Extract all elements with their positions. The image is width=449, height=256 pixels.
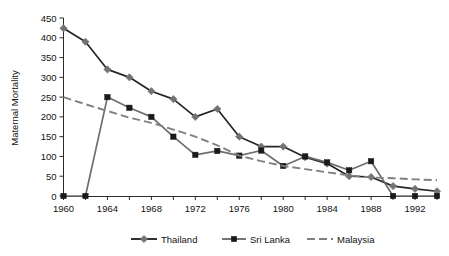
legend-label: Thailand (161, 234, 197, 245)
data-point-marker (412, 193, 417, 198)
legend-marker-swatch (231, 236, 236, 241)
data-point-marker (324, 160, 329, 165)
data-point-marker (368, 158, 373, 163)
y-tick-label: 100 (41, 151, 57, 162)
maternal-mortality-chart: Maternal Mortality 050100150200250300350… (0, 0, 449, 256)
y-axis-title-text: Maternal Mortality (9, 70, 20, 146)
data-point-marker (127, 105, 132, 110)
x-tick-label: 1984 (317, 203, 338, 214)
y-tick-label: 50 (46, 171, 57, 182)
x-tick-label: 1968 (141, 203, 162, 214)
x-tick-label: 1992 (404, 203, 425, 214)
data-point-marker (215, 148, 220, 153)
data-point-marker (193, 152, 198, 157)
x-tick-label: 1964 (97, 203, 118, 214)
data-point-marker (105, 94, 110, 99)
y-tick-label: 0 (51, 191, 56, 202)
data-point-marker (346, 168, 351, 173)
y-tick-label: 300 (41, 72, 57, 83)
legend-label: Sri Lanka (250, 234, 291, 245)
data-point-marker (61, 193, 66, 198)
chart-canvas: Maternal Mortality 050100150200250300350… (0, 0, 449, 256)
y-tick-label: 350 (41, 52, 57, 63)
legend-label: Malaysia (337, 234, 375, 245)
x-tick-label: 1980 (273, 203, 294, 214)
x-tick-label: 1976 (229, 203, 250, 214)
data-point-marker (83, 193, 88, 198)
data-point-marker (434, 193, 439, 198)
x-tick-label: 1972 (185, 203, 206, 214)
y-tick-label: 200 (41, 111, 57, 122)
x-tick-label: 1960 (53, 203, 74, 214)
data-point-marker (259, 148, 264, 153)
y-axis-title: Maternal Mortality (9, 70, 20, 146)
chart-legend: ThailandSri LankaMalaysia (131, 234, 375, 245)
data-point-marker (149, 114, 154, 119)
y-tick-label: 400 (41, 32, 57, 43)
data-point-marker (302, 154, 307, 159)
x-tick-label: 1988 (361, 203, 382, 214)
data-point-marker (390, 193, 395, 198)
chart-background (0, 0, 449, 256)
y-tick-label: 250 (41, 92, 57, 103)
y-tick-label: 150 (41, 131, 57, 142)
data-point-marker (171, 134, 176, 139)
y-tick-label: 450 (41, 13, 57, 24)
